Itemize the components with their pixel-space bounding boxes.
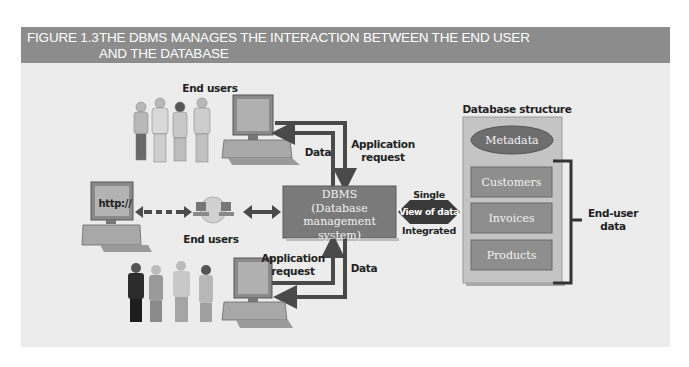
data-bottom-label: Data bbox=[349, 262, 379, 275]
app-request-top-label: Applicationrequest bbox=[348, 138, 418, 164]
view-of-data-label: View of data bbox=[398, 206, 460, 219]
end-user-data-label: End-userdata bbox=[583, 207, 643, 233]
invoices-label: Invoices bbox=[471, 212, 552, 225]
data-top-label: Data bbox=[303, 146, 333, 159]
end-users-middle-label: End users bbox=[176, 233, 246, 246]
database-structure-title: Database structure bbox=[462, 103, 572, 116]
single-label: Single bbox=[400, 188, 458, 201]
end-users-top-label: End users bbox=[175, 82, 245, 95]
diagram-graphics bbox=[0, 0, 689, 367]
customers-label: Customers bbox=[471, 176, 552, 189]
people-group-top-icon bbox=[134, 98, 210, 162]
dbms-label: DBMS(Databasemanagement system) bbox=[283, 188, 396, 236]
computer-top-icon bbox=[222, 95, 300, 165]
metadata-label: Metadata bbox=[471, 134, 553, 147]
products-label: Products bbox=[471, 249, 552, 262]
computer-web-icon bbox=[82, 182, 152, 252]
network-globe-icon bbox=[193, 197, 234, 223]
integrated-label: Integrated bbox=[398, 224, 460, 237]
people-group-bottom-icon bbox=[128, 261, 213, 322]
dotted-double-arrow bbox=[135, 206, 192, 218]
app-request-bottom-label: Applicationrequest bbox=[258, 252, 328, 278]
network-dbms-double-arrow bbox=[243, 205, 281, 219]
http-label: http:// bbox=[95, 197, 135, 210]
